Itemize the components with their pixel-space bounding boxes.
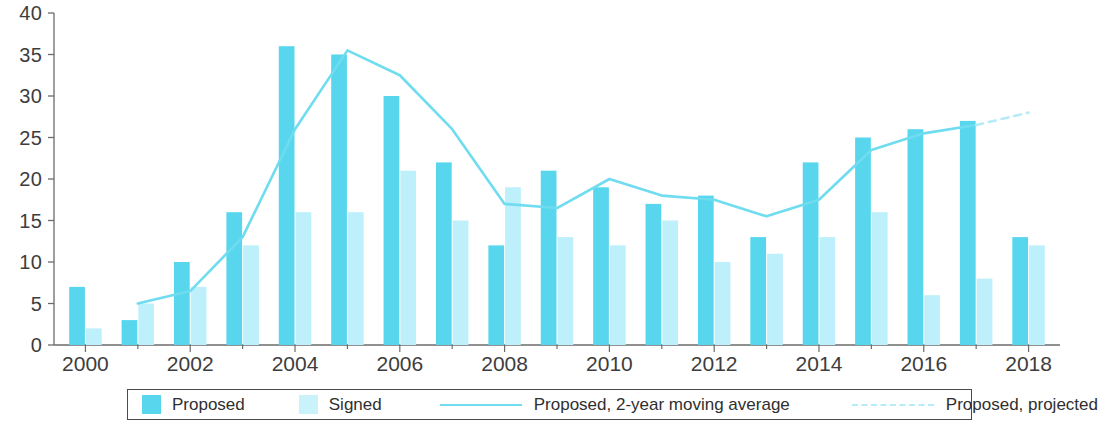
bar-signed-2015 [872,212,888,345]
x-axis-tick-label: 2008 [481,352,528,376]
x-axis-tick-label: 2012 [691,352,738,376]
bar-proposed-2012 [698,196,714,345]
bar-proposed-2017 [960,121,976,345]
bar-signed-2013 [767,254,783,345]
bar-proposed-2009 [541,171,557,345]
x-axis-tick-label: 2006 [376,352,423,376]
bar-proposed-2016 [908,129,924,345]
bar-proposed-2018 [1012,237,1028,345]
bar-signed-2016 [924,295,940,345]
legend-item-proposed: Proposed [142,395,245,415]
line-moving-average [138,50,976,303]
bar-signed-2010 [610,245,626,345]
y-axis-tick-label: 10 [0,251,42,274]
bar-signed-2004 [296,212,312,345]
y-axis-tick-label: 0 [0,334,42,357]
chart-legend: Proposed Signed Proposed, 2-year moving … [127,389,972,420]
bar-proposed-2004 [279,46,295,345]
bar-signed-2018 [1029,245,1045,345]
bar-proposed-2008 [488,245,504,345]
bar-proposed-2010 [593,187,609,345]
x-axis-tick-label: 2010 [586,352,633,376]
bar-signed-2001 [138,304,154,346]
bar-proposed-2002 [174,262,190,345]
bar-proposed-2006 [384,96,400,345]
legend-item-signed: Signed [299,395,382,415]
bar-signed-2000 [86,328,102,345]
y-axis-tick-label: 5 [0,292,42,315]
bar-signed-2011 [662,221,678,346]
x-axis-tick-label: 2016 [900,352,947,376]
bar-signed-2006 [400,171,416,345]
legend-label-projected: Proposed, projected [946,395,1098,415]
bar-proposed-2007 [436,162,452,345]
bar-proposed-2011 [646,204,662,345]
bar-signed-2007 [453,221,469,346]
line-projected [976,113,1028,125]
y-axis-tick-label: 15 [0,209,42,232]
bar-signed-2017 [977,279,993,345]
legend-label-signed: Signed [329,395,382,415]
x-axis-tick-label: 2018 [1005,352,1052,376]
bar-series-group [69,46,1045,345]
bar-signed-2003 [243,245,259,345]
bar-signed-2009 [558,237,574,345]
x-axis-tick-label: 2002 [167,352,214,376]
bar-signed-2005 [348,212,364,345]
legend-swatch-signed-icon [299,395,318,414]
legend-label-proposed: Proposed [172,395,245,415]
bar-proposed-2000 [69,287,85,345]
legend-line-dashed-icon [852,404,934,406]
line-series-group [138,50,1029,303]
bar-signed-2012 [715,262,731,345]
legend-item-projected: Proposed, projected [852,395,1098,415]
bar-signed-2002 [191,287,207,345]
bar-proposed-2001 [122,320,138,345]
bar-proposed-2003 [226,212,242,345]
bar-proposed-2014 [803,162,819,345]
x-axis-tick-label: 2000 [62,352,109,376]
x-axis-tick-label: 2004 [272,352,319,376]
bar-signed-2008 [505,187,521,345]
legend-swatch-proposed-icon [142,395,161,414]
y-axis-tick-label: 20 [0,168,42,191]
y-axis-tick-label: 40 [0,2,42,25]
bar-proposed-2015 [855,138,871,346]
y-axis-tick-label: 35 [0,43,42,66]
x-axis-tick-label: 2014 [796,352,843,376]
y-axis-tick-label: 25 [0,126,42,149]
bar-proposed-2005 [331,55,347,346]
bar-signed-2014 [820,237,836,345]
legend-label-moving-average: Proposed, 2-year moving average [534,395,790,415]
y-axis-tick-label: 30 [0,85,42,108]
bar-proposed-2013 [750,237,766,345]
legend-line-solid-icon [440,404,522,406]
legend-item-moving-average: Proposed, 2-year moving average [440,395,790,415]
